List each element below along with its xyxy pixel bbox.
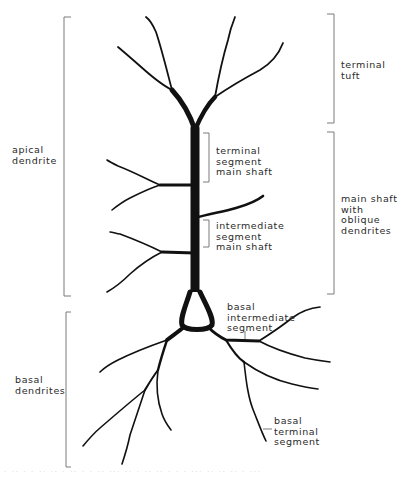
label-terminal-segment-main-shaft: terminal segment main shaft	[216, 146, 272, 178]
bracket-apical-dendrite	[64, 17, 71, 296]
bracket-main-shaft-oblique	[327, 132, 334, 294]
bracket-terminal-tuft	[327, 14, 334, 123]
label-main-shaft-with-oblique-dendrites: main shaft with oblique dendrites	[341, 194, 397, 236]
label-apical-dendrite: apical dendrite	[12, 145, 57, 166]
figure-caption-fragment: . .. . . .. .. . .. . . .. ... .. . .. .…	[4, 466, 402, 476]
label-terminal-tuft: terminal tuft	[341, 60, 385, 81]
label-basal-intermediate-segment: basal intermediate segment	[227, 302, 295, 334]
label-basal-terminal-segment: basal terminal segment	[274, 416, 320, 448]
bracket-intermediate-segment	[203, 220, 209, 247]
bracket-terminal-segment	[203, 133, 209, 182]
label-basal-dendrites: basal dendrites	[15, 375, 65, 396]
soma	[182, 292, 213, 330]
neuron-diagram: apical dendrite basal dendrites terminal…	[0, 0, 406, 478]
label-intermediate-segment-main-shaft: intermediate segment main shaft	[216, 221, 284, 253]
neuron	[83, 17, 330, 464]
bracket-basal-dendrites	[66, 312, 71, 467]
